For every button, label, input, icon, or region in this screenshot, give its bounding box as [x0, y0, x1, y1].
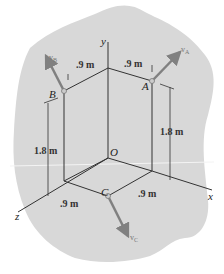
y-axis-label: y	[100, 35, 106, 47]
point-b-label: B	[49, 88, 56, 100]
rigid-body-diagram: y x z O B A C vB vA vC .9 m .9 m 1.8 m 1…	[0, 0, 224, 274]
dim-top-right: .9 m	[124, 58, 143, 69]
origin-label: O	[110, 146, 118, 158]
dim-left-height: 1.8 m	[34, 145, 58, 156]
dim-bottom-left: .9 m	[60, 198, 79, 209]
dim-right-height: 1.8 m	[160, 126, 184, 137]
point-a-marker	[150, 79, 155, 84]
point-c-label: C	[101, 186, 109, 198]
x-axis-label: x	[207, 190, 213, 202]
point-a-label: A	[141, 80, 149, 92]
body-blob	[13, 5, 213, 262]
dim-top-left: .9 m	[76, 59, 95, 70]
dim-bottom-right: .9 m	[138, 188, 157, 199]
z-axis-label: z	[14, 210, 20, 222]
point-b-marker	[62, 89, 67, 94]
